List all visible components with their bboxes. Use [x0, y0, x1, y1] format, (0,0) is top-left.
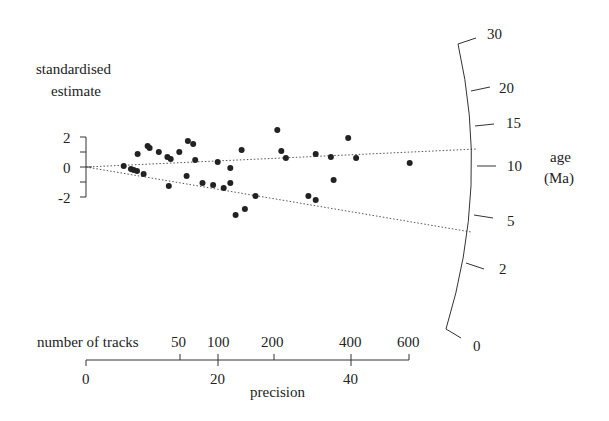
- data-point: [190, 141, 196, 147]
- tracks-tick-50: 50: [171, 334, 186, 350]
- y-tick-neg2: -2: [58, 190, 71, 206]
- data-point: [233, 212, 239, 218]
- data-point: [176, 149, 182, 155]
- data-point: [221, 185, 227, 191]
- data-point: [283, 155, 289, 161]
- data-point: [147, 145, 153, 151]
- y-tick-2: 2: [63, 130, 71, 146]
- data-point: [192, 157, 198, 163]
- age-tick-30: 30: [487, 26, 502, 42]
- data-point: [184, 173, 190, 179]
- data-points: [121, 127, 413, 218]
- data-point: [168, 156, 174, 162]
- data-point: [242, 206, 248, 212]
- data-point: [185, 138, 191, 144]
- age-tick-20: 20: [499, 80, 514, 96]
- age-tick-0: 0: [473, 338, 481, 354]
- data-point: [274, 127, 280, 133]
- tracks-tick-100: 100: [207, 334, 230, 350]
- data-point: [313, 151, 319, 157]
- data-point: [305, 193, 311, 199]
- data-point: [227, 180, 233, 186]
- tracks-tick-600: 600: [397, 334, 420, 350]
- data-point: [331, 177, 337, 183]
- age-tick-15: 15: [506, 115, 521, 131]
- data-point: [328, 154, 334, 160]
- data-point: [200, 180, 206, 186]
- data-point: [345, 135, 351, 141]
- tracks-tick-200: 200: [261, 334, 284, 350]
- age-arc-axis: [446, 44, 471, 329]
- data-point: [156, 149, 162, 155]
- age-tick-5: 5: [507, 213, 515, 229]
- age-axis-label-line1: age: [550, 149, 571, 165]
- data-point: [141, 171, 147, 177]
- y-tick-0: 0: [63, 160, 71, 176]
- tracks-axis-label: number of tracks: [37, 334, 139, 350]
- data-point: [239, 147, 245, 153]
- data-point: [135, 151, 141, 157]
- age-tick-10: 10: [507, 158, 522, 174]
- y-axis-label-line2: estimate: [51, 83, 101, 99]
- x-axis-label: precision: [250, 384, 305, 400]
- data-point: [134, 168, 140, 174]
- data-point: [407, 160, 413, 166]
- data-point: [121, 163, 127, 169]
- precision-tick-20: 20: [210, 371, 225, 387]
- y-axis-label-line1: standardised: [36, 61, 111, 77]
- data-point: [253, 193, 259, 199]
- data-point: [215, 159, 221, 165]
- tracks-tick-400: 400: [339, 334, 362, 350]
- data-point: [210, 182, 216, 188]
- precision-tick-0: 0: [82, 371, 90, 387]
- age-axis-label-line2: (Ma): [544, 170, 574, 187]
- data-point: [278, 148, 284, 154]
- data-point: [313, 197, 319, 203]
- data-point: [166, 183, 172, 189]
- radial-plot: standardised estimate 2 0 -2 30 20 15 10…: [0, 0, 609, 421]
- data-point: [353, 155, 359, 161]
- x-axis: [86, 354, 409, 366]
- age-tick-2: 2: [499, 261, 507, 277]
- precision-tick-40: 40: [343, 371, 358, 387]
- data-point: [227, 165, 233, 171]
